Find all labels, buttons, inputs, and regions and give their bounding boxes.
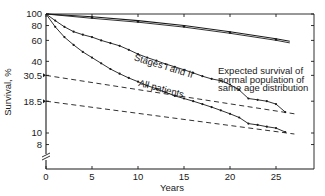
x-tick-label: 15 — [179, 171, 190, 182]
y-tick-label: 8 — [37, 139, 42, 150]
y-tick-label: 100 — [26, 8, 42, 19]
x-tick-label: 10 — [133, 171, 144, 182]
y-tick-label: 30.5 — [24, 70, 43, 81]
y-tick-label: 60 — [31, 35, 42, 46]
data-point — [238, 116, 240, 118]
data-point — [275, 38, 278, 41]
data-point — [54, 26, 56, 28]
data-point — [73, 44, 75, 46]
y-tick-label: 18.5 — [24, 96, 43, 107]
expected-survival-label: same age distribution — [218, 82, 308, 93]
data-point — [257, 99, 259, 101]
data-point — [201, 75, 203, 77]
data-point — [247, 97, 249, 99]
data-point — [266, 100, 268, 102]
data-point — [201, 103, 203, 105]
data-point — [119, 73, 121, 75]
data-point — [229, 113, 231, 115]
data-point — [91, 36, 93, 38]
data-point — [266, 126, 268, 128]
survival-chart: 051015202510080604030.518.5108 Stages I … — [0, 0, 325, 196]
data-point — [100, 39, 102, 41]
x-tick-label: 25 — [271, 171, 282, 182]
data-point — [211, 78, 213, 80]
all-patients-label: All patients — [137, 77, 185, 100]
data-point — [128, 77, 130, 79]
data-point — [82, 51, 84, 53]
data-point — [257, 124, 259, 126]
y-tick-label: 10 — [31, 127, 42, 138]
x-axis-label: Years — [160, 182, 184, 193]
data-point — [211, 106, 213, 108]
data-point — [128, 49, 130, 51]
x-tick-label: 20 — [225, 171, 236, 182]
data-point — [119, 45, 121, 47]
y-tick-label: 80 — [31, 20, 42, 31]
data-point — [54, 20, 56, 22]
data-point — [100, 62, 102, 64]
data-point — [192, 100, 194, 102]
data-point — [63, 36, 65, 38]
data-point — [109, 68, 111, 70]
data-point — [275, 103, 277, 105]
data-point — [91, 57, 93, 59]
data-point — [275, 127, 277, 129]
data-point — [220, 109, 222, 111]
expected-survival-dashed-line — [46, 101, 294, 134]
data-point — [82, 34, 84, 36]
y-axis-label: Survival, % — [2, 68, 13, 116]
data-point — [183, 97, 185, 99]
x-tick-label: 0 — [43, 171, 48, 182]
data-point — [137, 20, 140, 23]
data-point — [91, 16, 94, 19]
expected-survival-line-2 — [46, 14, 290, 43]
data-point — [63, 26, 65, 28]
stages-label: Stages I and II — [133, 51, 195, 79]
data-point — [73, 31, 75, 33]
data-point — [109, 42, 111, 44]
data-point — [183, 25, 186, 28]
data-point — [229, 31, 232, 34]
data-point — [247, 122, 249, 124]
annotations: Stages I and IIAll patientsExpected surv… — [133, 51, 309, 99]
x-tick-label: 5 — [89, 171, 94, 182]
y-tick-label: 40 — [31, 56, 42, 67]
